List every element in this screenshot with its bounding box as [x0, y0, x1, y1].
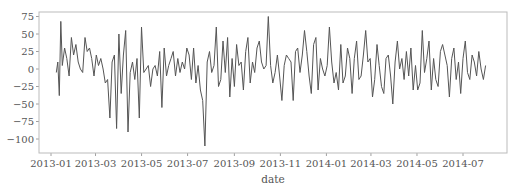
x-tick-label: 2013-09 — [214, 158, 256, 169]
y-tick-label: −50 — [13, 99, 34, 110]
y-tick-label: 75 — [21, 11, 34, 22]
y-tick-label: −75 — [13, 116, 34, 127]
x-tick-label: 2013-11 — [260, 158, 302, 169]
x-tick-label: 2013-01 — [30, 158, 72, 169]
y-tick-label: 25 — [21, 46, 34, 57]
x-axis-label: date — [261, 173, 284, 185]
x-tick-label: 2014-07 — [442, 158, 484, 169]
y-tick-label: 50 — [21, 29, 34, 40]
line-chart: 7550250−25−50−75−100 2013-012013-032013-… — [0, 0, 517, 189]
y-tick-label: 0 — [28, 64, 34, 75]
x-tick-label: 2013-03 — [75, 158, 117, 169]
x-tick-label: 2013-05 — [121, 158, 163, 169]
y-axis: 7550250−25−50−75−100 — [7, 11, 39, 145]
x-tick-label: 2014-03 — [350, 158, 392, 169]
x-tick-label: 2013-07 — [167, 158, 209, 169]
x-tick-label: 2014-05 — [396, 158, 438, 169]
x-tick-label: 2014-01 — [306, 158, 348, 169]
y-tick-label: −100 — [7, 134, 34, 145]
y-tick-label: −25 — [13, 81, 34, 92]
x-axis: 2013-012013-032013-052013-072013-092013-… — [30, 153, 484, 169]
